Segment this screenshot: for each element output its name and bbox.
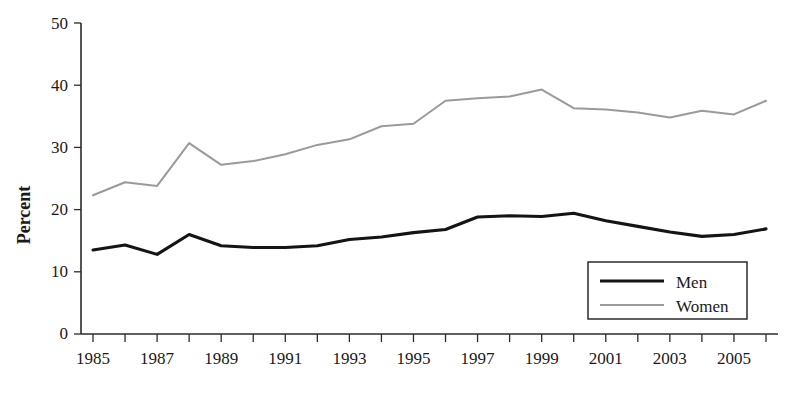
series-line-men xyxy=(93,213,766,254)
y-tick-label: 10 xyxy=(51,262,68,281)
x-tick-label: 2001 xyxy=(589,349,623,368)
series-line-women xyxy=(93,90,766,196)
y-axis-title: Percent xyxy=(14,186,34,245)
x-tick-label: 1997 xyxy=(461,349,496,368)
legend-label-women: Women xyxy=(676,297,729,316)
line-chart: Percent 50 40 30 20 10 0 198519871989199… xyxy=(0,0,789,398)
x-tick-label: 2003 xyxy=(653,349,687,368)
x-tick-label: 1985 xyxy=(76,349,110,368)
y-tick-label: 50 xyxy=(51,14,68,33)
chart-figure: Percent 50 40 30 20 10 0 198519871989199… xyxy=(0,0,789,398)
y-tick-labels: 50 40 30 20 10 0 xyxy=(51,14,68,343)
legend: Men Women xyxy=(588,262,747,319)
x-tick-labels: 1985198719891991199319951997199920012003… xyxy=(76,349,751,368)
y-tick-label: 20 xyxy=(51,200,68,219)
y-tick-label: 40 xyxy=(51,76,68,95)
x-tick-label: 2005 xyxy=(717,349,751,368)
x-tick-label: 1995 xyxy=(396,349,430,368)
x-tick-label: 1999 xyxy=(525,349,559,368)
x-tick-label: 1991 xyxy=(268,349,302,368)
y-tick-label: 30 xyxy=(51,138,68,157)
legend-label-men: Men xyxy=(676,273,708,292)
x-tick-marks xyxy=(93,334,766,342)
x-tick-label: 1989 xyxy=(204,349,238,368)
y-tick-marks xyxy=(74,23,81,334)
y-tick-label: 0 xyxy=(60,324,69,343)
x-tick-label: 1987 xyxy=(140,349,175,368)
x-tick-label: 1993 xyxy=(332,349,366,368)
